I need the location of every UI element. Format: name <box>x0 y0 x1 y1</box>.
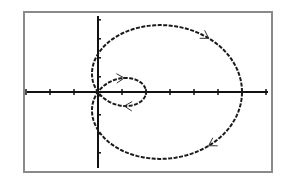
graph-screen <box>0 0 286 183</box>
